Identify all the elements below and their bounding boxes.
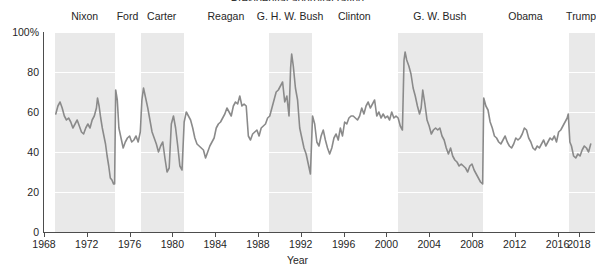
y-tick-label-0: 0 [3, 226, 39, 238]
x-tick-mark-2000 [386, 233, 387, 237]
x-tick-label-1972: 1972 [75, 238, 98, 250]
x-axis-line [43, 232, 595, 233]
x-tick-mark-2008 [472, 233, 473, 237]
x-tick-label-2018: 2018 [567, 238, 590, 250]
x-tick-mark-1980 [172, 233, 173, 237]
x-tick-mark-2016 [558, 233, 559, 237]
president-label-carter: Carter [147, 10, 176, 22]
approval-line-series [44, 32, 595, 232]
y-tick-label-100: 100% [3, 26, 39, 38]
y-axis-tick-labels: 020406080100% [0, 0, 39, 272]
president-label-row: NixonFordCarterReaganG. H. W. BushClinto… [0, 10, 595, 28]
president-label-ford: Ford [117, 10, 139, 22]
x-tick-label-1992: 1992 [289, 238, 312, 250]
x-tick-mark-2018 [579, 233, 580, 237]
x-tick-label-2004: 2004 [417, 238, 440, 250]
x-tick-label-1984: 1984 [203, 238, 226, 250]
x-axis-title: Year [0, 254, 595, 266]
x-tick-label-1968: 1968 [32, 238, 55, 250]
x-tick-label-1976: 1976 [118, 238, 141, 250]
x-tick-label-1988: 1988 [246, 238, 269, 250]
president-label-trump: Trump [566, 10, 596, 22]
plot-area [44, 32, 595, 232]
x-tick-mark-1988 [258, 233, 259, 237]
president-label-obama: Obama [508, 10, 542, 22]
president-label-nixon: Nixon [71, 10, 98, 22]
y-axis-line [43, 32, 44, 233]
x-tick-mark-1976 [130, 233, 131, 237]
x-tick-mark-1968 [44, 233, 45, 237]
x-tick-mark-1984 [215, 233, 216, 237]
x-tick-label-2016: 2016 [546, 238, 569, 250]
y-tick-label-80: 80 [3, 66, 39, 78]
president-label-reagan: Reagan [207, 10, 244, 22]
x-tick-label-2000: 2000 [375, 238, 398, 250]
x-tick-mark-2012 [515, 233, 516, 237]
x-tick-mark-1972 [87, 233, 88, 237]
president-label-g-h-w-bush: G. H. W. Bush [257, 10, 324, 22]
x-tick-mark-2004 [429, 233, 430, 237]
y-tick-label-60: 60 [3, 106, 39, 118]
president-label-clinton: Clinton [338, 10, 371, 22]
x-tick-mark-1992 [301, 233, 302, 237]
x-tick-label-1980: 1980 [161, 238, 184, 250]
chart-title-clipped: Presidential approval rating [0, 0, 595, 1]
y-tick-label-20: 20 [3, 186, 39, 198]
x-tick-label-1996: 1996 [332, 238, 355, 250]
president-label-g-w-bush: G. W. Bush [413, 10, 466, 22]
x-tick-mark-1996 [344, 233, 345, 237]
y-tick-label-40: 40 [3, 146, 39, 158]
x-tick-label-2012: 2012 [503, 238, 526, 250]
x-tick-label-2008: 2008 [460, 238, 483, 250]
